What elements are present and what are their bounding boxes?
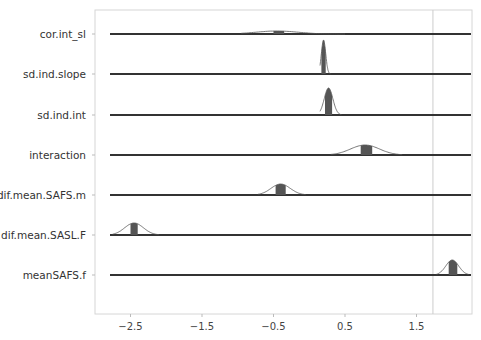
y-tick-label: cor.int_sl <box>40 28 86 41</box>
y-tick-label: sd.ind.slope <box>23 68 86 80</box>
x-tick-label: 0.5 <box>337 321 353 332</box>
x-axis: −2.5−1.5−0.50.51.5 <box>118 314 424 332</box>
x-tick-label: 1.5 <box>409 321 425 332</box>
credible-interval <box>361 145 373 155</box>
y-tick-label: interaction <box>29 149 86 161</box>
y-tick-label: meanSAFS.f <box>23 269 87 281</box>
x-tick-label: −1.5 <box>190 321 214 332</box>
y-tick-label: dif.mean.SASL.F <box>1 229 86 241</box>
ridgeline-chart: cor.int_slsd.ind.slopesd.ind.intinteract… <box>0 0 481 340</box>
y-tick-label: dif.mean.SAFS.m <box>0 189 86 201</box>
credible-interval <box>276 184 286 195</box>
y-tick-label: sd.ind.int <box>37 109 86 121</box>
plot-area <box>95 10 472 314</box>
x-tick-label: −0.5 <box>261 321 285 332</box>
credible-interval <box>131 223 138 235</box>
x-tick-label: −2.5 <box>118 321 142 332</box>
